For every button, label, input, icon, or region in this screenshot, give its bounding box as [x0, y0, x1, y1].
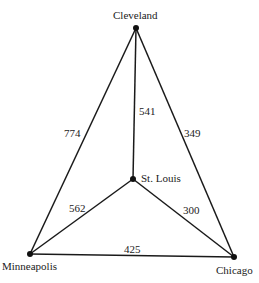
node-st-louis: [130, 176, 136, 182]
graph-diagram: [0, 0, 259, 283]
edge-cleveland-chicago: [136, 28, 234, 257]
edge-weight-st-louis-chicago: 300: [183, 205, 200, 216]
edge-weight-st-louis-minneapolis: 562: [69, 203, 86, 214]
node-label-st-louis: St. Louis: [141, 173, 181, 184]
node-label-chicago: Chicago: [216, 265, 253, 276]
edge-st-louis-chicago: [133, 179, 234, 257]
edge-weight-cleveland-minneapolis: 774: [64, 128, 81, 139]
node-minneapolis: [27, 251, 33, 257]
edge-cleveland-minneapolis: [30, 28, 136, 254]
node-chicago: [231, 254, 237, 260]
edge-weight-cleveland-st-louis: 541: [139, 106, 156, 117]
node-cleveland: [133, 25, 139, 31]
edge-weight-cleveland-chicago: 349: [184, 128, 201, 139]
edge-st-louis-minneapolis: [30, 179, 133, 254]
edge-cleveland-st-louis: [133, 28, 136, 179]
edge-weight-minneapolis-chicago: 425: [124, 244, 141, 255]
node-label-cleveland: Cleveland: [113, 10, 158, 21]
node-label-minneapolis: Minneapolis: [2, 261, 57, 272]
